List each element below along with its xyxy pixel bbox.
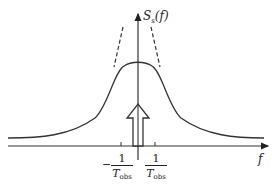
dashed-peak-left [114,27,123,67]
tick-right-label: 1 Tobs [143,153,169,181]
dashed-peak-right [151,27,160,67]
tick-left-label: 1 Tobs [109,153,135,181]
y-axis-label: Ss(f) [143,10,169,25]
x-axis-label: f [258,153,262,165]
spectrum-diagram: Ss(f) f − 1 Tobs 1 Tobs [0,0,279,188]
diagram-canvas [0,0,279,188]
